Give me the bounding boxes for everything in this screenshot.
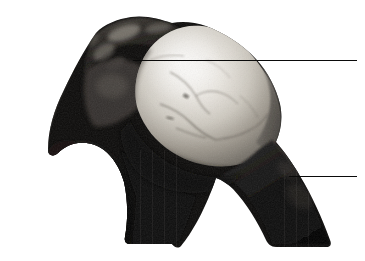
specimen-photograph [0,0,365,261]
figure-root [0,0,365,261]
